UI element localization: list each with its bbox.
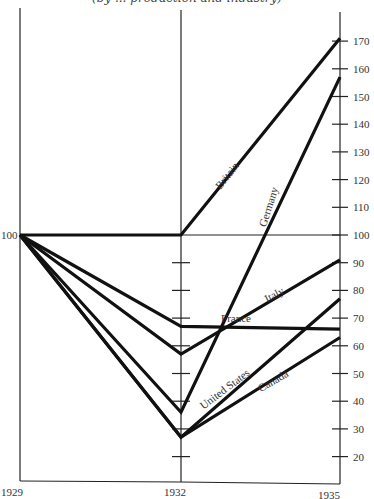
tick-label: 50 bbox=[353, 368, 365, 380]
tick-label: 80 bbox=[353, 284, 365, 296]
tick-label: 130 bbox=[353, 146, 370, 158]
tick-label: 160 bbox=[353, 63, 370, 75]
tick-label: 90 bbox=[353, 257, 365, 269]
line-chart: 2030405060708090100110120130140150160170… bbox=[0, 0, 374, 499]
left-axis-label: 100 bbox=[1, 229, 18, 241]
tick-label: 110 bbox=[353, 201, 370, 213]
series-line-canada bbox=[20, 235, 340, 437]
data-lines bbox=[20, 38, 340, 437]
x-tick-label: 1929 bbox=[1, 486, 24, 498]
x-tick-label: 1932 bbox=[164, 486, 186, 498]
series-line-united-states bbox=[20, 235, 340, 437]
tick-label: 60 bbox=[353, 340, 365, 352]
series-line-france bbox=[20, 235, 340, 329]
series-label: Britain bbox=[213, 159, 242, 191]
series-label: Italy bbox=[262, 284, 286, 304]
tick-label: 40 bbox=[353, 395, 365, 407]
series-label: United States bbox=[197, 366, 251, 411]
series-label: France bbox=[221, 312, 251, 324]
tick-label: 150 bbox=[353, 91, 370, 103]
axes bbox=[20, 8, 348, 484]
tick-label: 100 bbox=[353, 229, 370, 241]
tick-label: 120 bbox=[353, 174, 370, 186]
baseline bbox=[20, 481, 340, 484]
tick-label: 140 bbox=[353, 118, 370, 130]
tick-label: 20 bbox=[353, 451, 365, 463]
tick-label: 70 bbox=[353, 312, 365, 324]
tick-label: 30 bbox=[353, 423, 365, 435]
series-label: Germany bbox=[256, 185, 280, 228]
series-line-britain bbox=[20, 38, 340, 235]
tick-label: 170 bbox=[353, 35, 370, 47]
series-line-germany bbox=[20, 77, 340, 412]
series-label: Canada bbox=[256, 367, 291, 394]
x-tick-label: 1935 bbox=[318, 489, 341, 499]
